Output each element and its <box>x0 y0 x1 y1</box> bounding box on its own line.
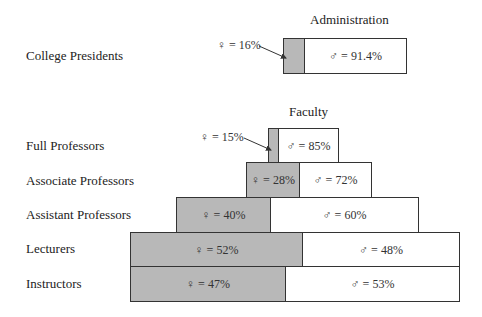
male-segment: ♂ = 72% <box>299 163 371 197</box>
bar-instructors: ♀ = 47% ♂ = 53% <box>130 266 460 302</box>
bar-college-presidents: ♂ = 91.4% <box>283 38 407 74</box>
male-segment: ♂ = 85% <box>278 129 338 163</box>
bar-full-professors: ♂ = 85% <box>268 128 339 164</box>
female-segment: ♀ = 47% <box>131 267 285 301</box>
row-label-assistant-professors: Assistant Professors <box>26 207 131 223</box>
row-label-associate-professors: Associate Professors <box>26 173 134 189</box>
male-value-label: ♂ = 85% <box>287 139 331 154</box>
female-segment: ♀ = 28% <box>247 163 299 197</box>
male-segment: ♂ = 53% <box>285 267 459 301</box>
male-segment: ♂ = 91.4% <box>304 39 406 73</box>
male-value-label: ♂ = 48% <box>359 243 403 258</box>
male-value-label: ♂ = 72% <box>314 173 358 188</box>
female-segment <box>269 129 278 163</box>
administration-title: Administration <box>310 12 389 28</box>
female-segment: ♀ = 40% <box>177 198 270 232</box>
row-label-college-presidents: College Presidents <box>26 48 123 64</box>
bar-lecturers: ♀ = 52% ♂ = 48% <box>130 232 460 268</box>
arrow-icon <box>244 138 271 150</box>
male-value-label: ♂ = 53% <box>351 277 395 292</box>
female-segment: ♀ = 52% <box>131 233 302 267</box>
arrow-icon <box>259 46 286 58</box>
female-callout-presidents: ♀ = 16% <box>217 38 261 53</box>
row-label-lecturers: Lecturers <box>26 241 75 257</box>
row-label-full-professors: Full Professors <box>26 138 104 154</box>
male-segment: ♂ = 48% <box>302 233 459 267</box>
female-value-label: ♀ = 47% <box>186 277 230 292</box>
male-segment: ♂ = 60% <box>270 198 418 232</box>
female-callout-full-professors: ♀ = 15% <box>200 130 244 145</box>
male-value-label: ♂ = 60% <box>323 208 367 223</box>
female-value-label: ♀ = 52% <box>195 243 239 258</box>
row-label-instructors: Instructors <box>26 276 82 292</box>
male-value-label: ♂ = 91.4% <box>329 49 382 64</box>
bar-associate-professors: ♀ = 28% ♂ = 72% <box>246 162 372 198</box>
faculty-title: Faculty <box>289 104 328 120</box>
female-segment <box>284 39 304 73</box>
bar-assistant-professors: ♀ = 40% ♂ = 60% <box>176 197 419 233</box>
female-value-label: ♀ = 28% <box>251 173 295 188</box>
female-value-label: ♀ = 40% <box>202 208 246 223</box>
